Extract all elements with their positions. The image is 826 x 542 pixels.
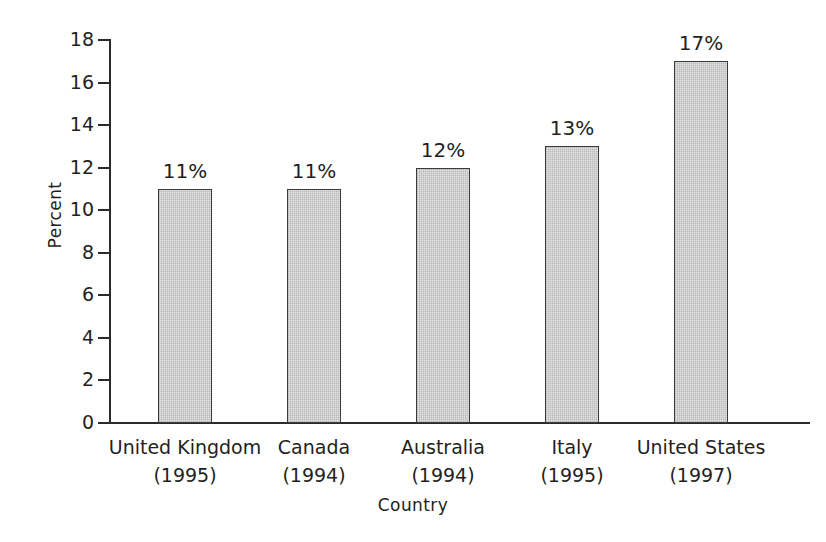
y-axis-tick	[98, 167, 110, 169]
y-axis-tick-label: 0	[38, 413, 94, 432]
bar-value-label: 11%	[130, 161, 240, 181]
y-axis-tick	[98, 294, 110, 296]
y-axis-tick-label: 10	[38, 200, 94, 219]
y-axis-tick-label: 14	[38, 115, 94, 134]
bar	[674, 61, 728, 423]
y-axis-tick	[98, 124, 110, 126]
y-axis-tick-label: 2	[38, 370, 94, 389]
y-axis-tick	[98, 252, 110, 254]
y-axis-tick	[98, 422, 110, 424]
y-axis-tick	[98, 82, 110, 84]
bar-value-label: 13%	[517, 118, 627, 138]
y-axis-tick-label: 12	[38, 158, 94, 177]
y-axis-tick	[98, 379, 110, 381]
category-name: United States	[611, 434, 791, 462]
y-axis-tick-label: 4	[38, 328, 94, 347]
bar-value-label: 12%	[388, 140, 498, 160]
y-axis-tick-label: 6	[38, 285, 94, 304]
y-axis-tick	[98, 209, 110, 211]
bar	[287, 189, 341, 423]
bar-value-label: 17%	[646, 33, 756, 53]
bar	[545, 146, 599, 423]
bar-value-label: 11%	[259, 161, 369, 181]
y-axis-tick	[98, 39, 110, 41]
y-axis-line	[109, 39, 111, 424]
x-axis-category-label: United States(1997)	[611, 434, 791, 489]
x-axis-title: Country	[0, 495, 826, 515]
category-year: (1997)	[611, 462, 791, 490]
bar	[158, 189, 212, 423]
bar-chart: Percent 024681012141618 11%11%12%13%17% …	[0, 0, 826, 542]
y-axis-tick-label: 18	[38, 30, 94, 49]
y-axis-tick-label: 16	[38, 73, 94, 92]
y-axis-tick-label: 8	[38, 243, 94, 262]
bar	[416, 168, 470, 423]
y-axis-tick	[98, 337, 110, 339]
